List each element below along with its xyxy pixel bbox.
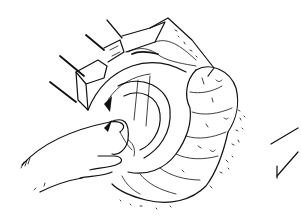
stipple-shadow — [120, 110, 245, 209]
intestine-loops — [112, 67, 238, 202]
cavity — [88, 63, 186, 132]
hand — [21, 120, 135, 192]
pointer-marks — [271, 128, 298, 178]
surgical-illustration — [0, 0, 301, 224]
wound-edge-blocks — [76, 22, 165, 110]
